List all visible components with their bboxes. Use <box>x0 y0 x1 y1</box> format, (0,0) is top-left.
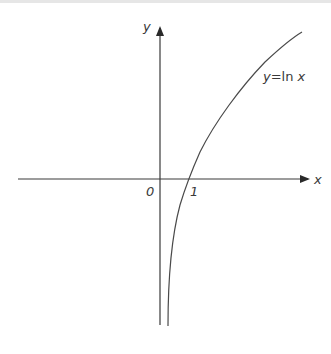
x-axis-label: x <box>313 172 322 187</box>
ln-graph: y x 0 1 y=ln x <box>0 0 331 354</box>
origin-label: 0 <box>146 184 154 199</box>
tick-label-one: 1 <box>190 184 198 199</box>
y-axis-label: y <box>142 19 151 34</box>
function-label: y=ln x <box>262 69 306 84</box>
